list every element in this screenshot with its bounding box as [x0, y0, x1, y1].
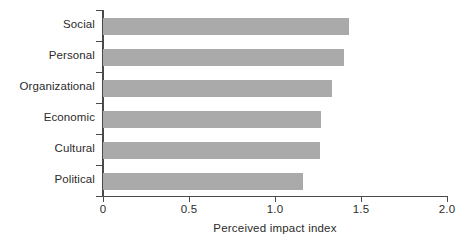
y-axis-tick: [96, 72, 103, 73]
y-axis-tick: [96, 41, 103, 42]
bar-social: [103, 18, 349, 35]
x-axis-tick-label: 1.5: [353, 203, 370, 215]
x-axis-title: Perceived impact index: [103, 222, 447, 234]
x-axis-tick: [275, 196, 276, 202]
bar-political: [103, 173, 303, 190]
y-axis-label-political: Political: [0, 173, 95, 185]
x-axis-tick-label: 0: [100, 203, 107, 215]
y-axis-tick: [96, 134, 103, 135]
y-axis-tick: [96, 165, 103, 166]
bar-cultural: [103, 142, 320, 159]
x-axis-tick: [447, 196, 448, 202]
y-axis-label-cultural: Cultural: [0, 142, 95, 154]
y-axis-label-economic: Economic: [0, 111, 95, 123]
x-axis-tick: [189, 196, 190, 202]
bar-organizational: [103, 80, 332, 97]
bar-chart: SocialPersonalOrganizationalEconomicCult…: [0, 0, 475, 250]
x-axis-tick-label: 1.0: [267, 203, 284, 215]
x-axis-tick-label: 0.5: [181, 203, 198, 215]
y-axis-label-social: Social: [0, 18, 95, 30]
x-axis-tick: [103, 196, 104, 202]
y-axis-label-organizational: Organizational: [0, 80, 95, 92]
y-axis-label-personal: Personal: [0, 49, 95, 61]
y-axis-tick: [96, 196, 103, 197]
bar-personal: [103, 49, 344, 66]
y-axis-tick: [96, 103, 103, 104]
y-axis-tick: [96, 10, 103, 11]
bar-economic: [103, 111, 321, 128]
x-axis-tick-label: 2.0: [439, 203, 456, 215]
x-axis-tick: [361, 196, 362, 202]
